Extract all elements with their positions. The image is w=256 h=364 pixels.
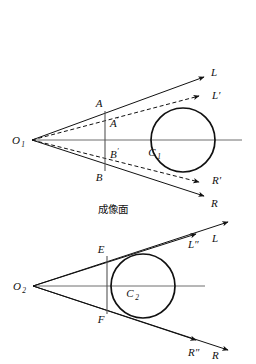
lower-ray-L [33,222,228,286]
label-ray-L-double-prime: L″ [187,238,199,250]
label-o2-subscript: 2 [22,286,26,295]
label-c1-subscript: 1 [157,152,161,161]
label-point-a: A [95,97,103,109]
label-ray-R-prime: R′ [211,174,222,186]
label-point-f: F [97,313,105,325]
lower-diagram-group: O 2 E F C 2 L″ L R″ R [13,222,228,361]
label-point-b-prime-mark: ′ [117,147,119,156]
label-o1-subscript: 1 [21,140,25,149]
label-point-b-prime: B [110,148,117,160]
label-c1: C [148,146,156,158]
upper-ray-R-prime-dashed [32,140,199,182]
label-ray-L-lower: L [211,232,218,244]
label-o2: O [13,280,21,292]
label-ray-R: R [210,197,218,209]
caption-image-plane: 成像面 [98,203,128,215]
optics-diagram-figure: O 1 A A ′ B ′ B C 1 L L′ R′ R 成像面 O 2 E [0,0,256,364]
label-c2: C [126,287,134,299]
label-ray-R-double-prime: R″ [187,346,200,358]
label-c2-subscript: 2 [135,293,139,302]
label-o1: O [12,134,20,146]
label-ray-L-prime: L′ [211,89,221,101]
label-ray-L: L [210,66,217,78]
label-point-e: E [97,243,105,255]
label-ray-R-lower: R [211,349,219,361]
label-point-b: B [96,171,103,183]
upper-diagram-group: O 1 A A ′ B ′ B C 1 L L′ R′ R [12,66,242,209]
